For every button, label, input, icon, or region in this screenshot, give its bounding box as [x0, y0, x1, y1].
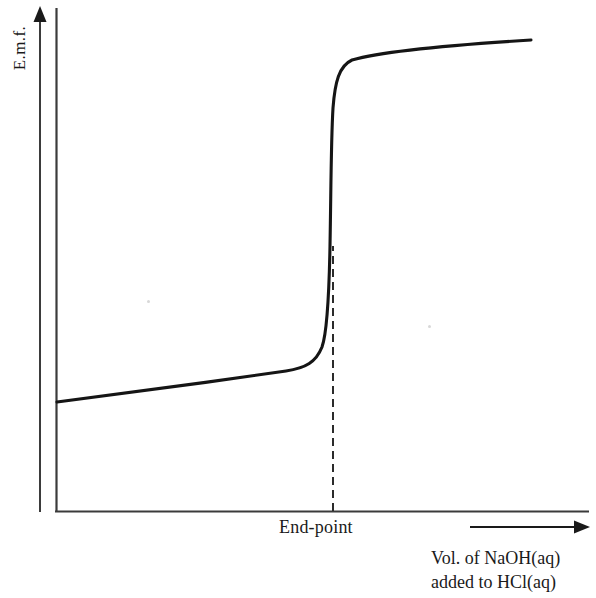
- chart-canvas: [0, 0, 596, 598]
- scan-speck: [147, 300, 150, 303]
- x-axis-caption-line-2: added to HCl(aq): [431, 570, 560, 594]
- x-axis-caption: Vol. of NaOH(aq) added to HCl(aq): [431, 546, 560, 594]
- scan-speck: [428, 325, 431, 328]
- titration-curve-path: [57, 40, 531, 402]
- end-point-label: End-point: [279, 517, 353, 538]
- y-axis-arrow-icon: [34, 6, 47, 512]
- x-axis-arrow-icon: [470, 521, 590, 534]
- titration-curve-figure: E.m.f. End-point Vol. of NaOH(aq) added …: [0, 0, 596, 598]
- y-axis-label: E.m.f.: [10, 8, 30, 88]
- x-axis-caption-line-1: Vol. of NaOH(aq): [431, 546, 560, 570]
